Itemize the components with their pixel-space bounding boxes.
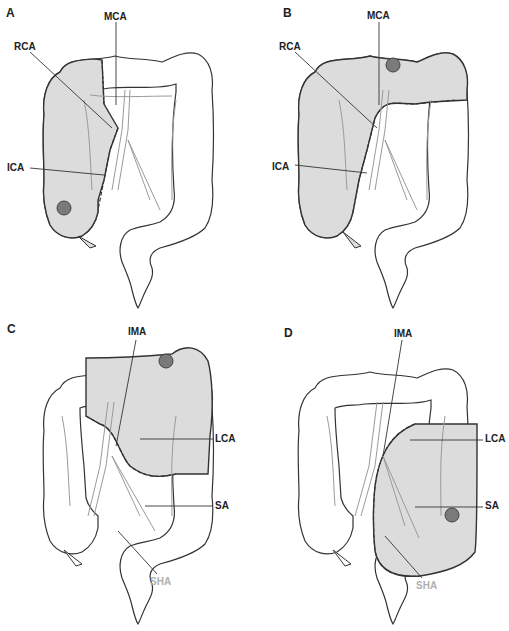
label-rca: RCA <box>14 41 36 52</box>
panel-letter: A <box>6 6 15 20</box>
label-sha: SHA <box>416 580 437 591</box>
panel-letter: C <box>7 322 16 336</box>
colon-diagram-d <box>255 316 509 631</box>
panel-letter: B <box>283 6 292 20</box>
label-lca: LCA <box>485 433 506 444</box>
resected-region-d <box>374 424 478 576</box>
tumor-c <box>159 354 173 368</box>
resected-region-c <box>86 348 212 477</box>
label-mca: MCA <box>367 10 390 21</box>
label-ica: ICA <box>7 162 24 173</box>
panel-d: D IMA LCA SA SHA <box>255 316 509 631</box>
label-sha: SHA <box>150 576 171 587</box>
appendix-a <box>78 236 96 248</box>
label-mca: MCA <box>104 11 127 22</box>
tumor-a <box>57 201 71 215</box>
appendix-d <box>333 550 351 566</box>
colon-diagram-a <box>0 0 254 315</box>
label-sa: SA <box>485 500 499 511</box>
tumor-b <box>386 58 400 72</box>
label-ima: IMA <box>394 328 412 339</box>
panel-letter: D <box>284 326 293 340</box>
panel-b: B MCA RCA ICA <box>255 0 509 315</box>
label-rca: RCA <box>279 41 301 52</box>
tumor-d <box>445 508 459 522</box>
colon-diagram-c <box>0 316 254 631</box>
appendix-b <box>343 232 361 248</box>
label-lca: LCA <box>215 433 236 444</box>
panel-c: C IMA LCA SA SHA <box>0 316 254 631</box>
label-sa: SA <box>215 500 229 511</box>
label-ica: ICA <box>272 161 289 172</box>
panel-a: A MCA RCA ICA <box>0 0 254 315</box>
label-ima: IMA <box>128 326 146 337</box>
